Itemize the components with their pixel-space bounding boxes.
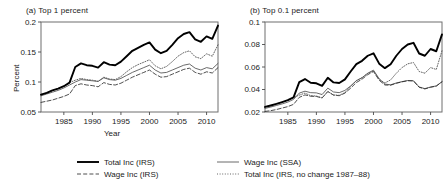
svg-text:0.15: 0.15 xyxy=(20,48,36,57)
svg-text:Total Inc (IRS, no change 1987: Total Inc (IRS, no change 1987–88) xyxy=(244,170,370,179)
legend-graphic: Total Inc (IRS)Wage Inc (IRS)Wage Inc (S… xyxy=(0,150,448,188)
svg-text:0.06: 0.06 xyxy=(244,63,260,72)
panel-a-plot: 0.050.10.150.2198519901995200020052010 xyxy=(0,0,224,146)
svg-text:2005: 2005 xyxy=(393,117,411,126)
svg-text:Total Inc (IRS): Total Inc (IRS) xyxy=(104,158,155,167)
chart-panel-b: (b) Top 0.1 percent Percent Year 0.020.0… xyxy=(224,0,448,146)
svg-text:Wage Inc (SSA): Wage Inc (SSA) xyxy=(244,158,301,167)
svg-text:1990: 1990 xyxy=(307,117,325,126)
svg-text:2010: 2010 xyxy=(198,117,216,126)
svg-text:1985: 1985 xyxy=(279,117,297,126)
svg-text:2010: 2010 xyxy=(422,117,440,126)
svg-text:0.2: 0.2 xyxy=(25,18,37,27)
figure-container: (a) Top 1 percent Percent Year 0.050.10.… xyxy=(0,0,448,188)
svg-text:1985: 1985 xyxy=(55,117,73,126)
svg-text:Wage Inc (IRS): Wage Inc (IRS) xyxy=(104,170,159,179)
svg-text:2005: 2005 xyxy=(169,117,187,126)
svg-text:2000: 2000 xyxy=(141,117,159,126)
svg-text:0.08: 0.08 xyxy=(244,40,260,49)
chart-panel-a: (a) Top 1 percent Percent Year 0.050.10.… xyxy=(0,0,224,146)
svg-text:0.04: 0.04 xyxy=(244,85,260,94)
svg-text:0.1: 0.1 xyxy=(25,78,37,87)
chart-legend: Total Inc (IRS)Wage Inc (IRS)Wage Inc (S… xyxy=(0,150,448,188)
svg-text:1995: 1995 xyxy=(336,117,354,126)
svg-text:0.1: 0.1 xyxy=(249,18,261,27)
svg-text:0.05: 0.05 xyxy=(20,108,36,117)
panel-b-plot: 0.020.040.060.080.1198519901995200020052… xyxy=(224,0,448,146)
svg-text:1990: 1990 xyxy=(83,117,101,126)
svg-text:0.02: 0.02 xyxy=(244,108,260,117)
svg-text:2000: 2000 xyxy=(365,117,383,126)
svg-text:1995: 1995 xyxy=(112,117,130,126)
